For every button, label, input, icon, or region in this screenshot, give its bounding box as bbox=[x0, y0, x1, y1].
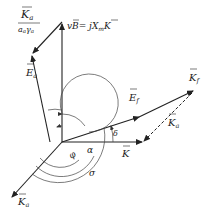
vector-Ka-scaled bbox=[33, 22, 62, 53]
arc-alpha-lower bbox=[36, 156, 94, 177]
phasor-diagram: Ka aaγa vB= jXmK Ea Ef Kf Ka K Ka δ α φ … bbox=[0, 0, 206, 213]
svg-text:Ef: Ef bbox=[128, 92, 140, 105]
svg-text:Ka: Ka bbox=[17, 196, 29, 209]
label-Kf: Kf bbox=[188, 69, 200, 85]
svg-text:aaγa: aaγa bbox=[18, 25, 34, 34]
label-Ef: Ef bbox=[128, 89, 140, 105]
arc-beta bbox=[57, 126, 62, 127]
angle-alpha: α bbox=[87, 145, 93, 155]
vector-Ea bbox=[32, 56, 50, 142]
svg-text:Kf: Kf bbox=[188, 72, 200, 85]
label-K: K bbox=[121, 146, 130, 159]
arc-top bbox=[62, 114, 85, 126]
label-Ka-neg: Ka bbox=[17, 194, 29, 209]
label-Ka-scaled: Ka aaγa bbox=[18, 7, 40, 34]
arc-alpha bbox=[60, 74, 118, 132]
arc-phi bbox=[48, 109, 62, 110]
angle-sigma: σ bbox=[89, 168, 96, 178]
angle-delta: δ bbox=[113, 129, 118, 138]
vector-Kf bbox=[139, 91, 193, 117]
svg-text:Ka: Ka bbox=[167, 117, 179, 130]
label-Ea: Ea bbox=[25, 64, 37, 80]
label-Ka-dashed: Ka bbox=[167, 114, 179, 130]
angle-phi: φ bbox=[67, 149, 78, 161]
svg-text:vB= jXmK: vB= jXmK bbox=[67, 21, 112, 32]
vector-Ka-neg bbox=[12, 142, 62, 197]
svg-text:Ka: Ka bbox=[20, 8, 33, 22]
svg-text:K: K bbox=[121, 148, 130, 159]
label-vB: vB= jXmK bbox=[67, 20, 118, 32]
svg-text:Ea: Ea bbox=[25, 67, 37, 80]
